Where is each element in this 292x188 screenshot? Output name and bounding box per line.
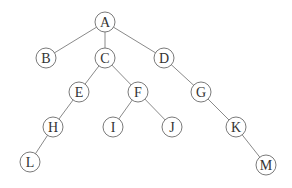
node-label: C — [100, 51, 109, 66]
node-label: H — [48, 120, 58, 135]
node-label: F — [134, 85, 142, 100]
node-j: J — [162, 117, 182, 137]
node-b: B — [36, 48, 56, 68]
node-label: M — [260, 158, 273, 173]
tree-diagram: ABCDEFGHIJKLM — [0, 0, 292, 188]
node-label: K — [231, 120, 241, 135]
node-label: E — [75, 85, 84, 100]
node-m: M — [256, 155, 276, 175]
node-label: B — [41, 51, 50, 66]
node-a: A — [95, 12, 115, 32]
node-h: H — [43, 117, 63, 137]
node-i: I — [103, 117, 123, 137]
node-c: C — [95, 48, 115, 68]
node-label: G — [196, 85, 206, 100]
node-label: I — [111, 120, 116, 135]
node-k: K — [226, 117, 246, 137]
node-g: G — [191, 82, 211, 102]
node-label: J — [169, 120, 175, 135]
node-label: L — [26, 155, 35, 170]
nodes: ABCDEFGHIJKLM — [20, 12, 276, 175]
node-e: E — [69, 82, 89, 102]
node-label: D — [159, 51, 169, 66]
node-l: L — [20, 152, 40, 172]
node-f: F — [128, 82, 148, 102]
node-d: D — [154, 48, 174, 68]
node-label: A — [100, 15, 111, 30]
